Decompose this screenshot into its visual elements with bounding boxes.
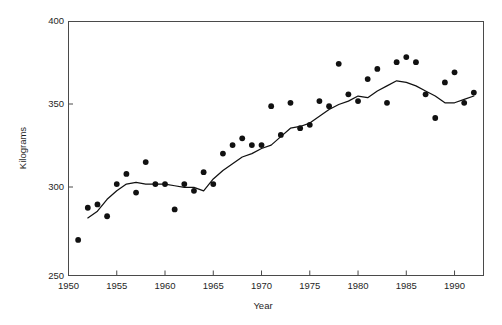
data-point (104, 213, 110, 219)
data-point (239, 135, 245, 141)
data-point (152, 181, 158, 187)
data-point (249, 142, 255, 148)
data-point (317, 98, 323, 104)
data-point (172, 207, 178, 213)
data-point (75, 237, 81, 243)
data-point (133, 190, 139, 196)
data-point (124, 171, 130, 177)
data-point (259, 142, 265, 148)
data-point (162, 181, 168, 187)
data-point (143, 159, 149, 165)
data-point (210, 181, 216, 187)
data-point (403, 54, 409, 60)
data-point (326, 103, 332, 109)
data-point (181, 181, 187, 187)
data-point (307, 122, 313, 128)
plot-frame (69, 22, 484, 276)
x-tick-label-1975: 1975 (299, 280, 320, 291)
data-point (365, 76, 371, 82)
data-point (355, 98, 361, 104)
y-tick-label-400: 400 (48, 15, 64, 26)
x-tick-label-1980: 1980 (347, 280, 368, 291)
x-tick-label-1990: 1990 (444, 280, 465, 291)
x-tick-label-1960: 1960 (154, 280, 175, 291)
data-point (345, 91, 351, 97)
x-tick-label-1950: 1950 (58, 280, 79, 291)
data-point (432, 115, 438, 121)
x-axis-tick-labels: 195019551960196519701975198019851990 (58, 280, 465, 291)
x-tick-label-1955: 1955 (106, 280, 127, 291)
data-point (201, 169, 207, 175)
x-axis-title: Year (253, 300, 272, 311)
y-tick-label-350: 350 (48, 98, 64, 109)
data-point (374, 66, 380, 72)
data-point (297, 125, 303, 131)
y-tick-label-300: 300 (48, 181, 64, 192)
data-point (85, 205, 91, 211)
data-point (442, 80, 448, 86)
data-point (394, 59, 400, 65)
data-point (423, 91, 429, 97)
y-axis-tick-labels: 400 350 300 250 (48, 15, 64, 281)
data-point (471, 90, 477, 96)
x-tick-label-1985: 1985 (396, 280, 417, 291)
x-axis-tickmarks (69, 271, 455, 276)
chart-figure: 400 350 300 250 195019551960196519701975… (0, 0, 502, 325)
x-tick-label-1970: 1970 (251, 280, 272, 291)
data-point (278, 132, 284, 138)
x-tick-label-1965: 1965 (203, 280, 224, 291)
data-point (288, 100, 294, 106)
data-point (114, 181, 120, 187)
data-point (191, 188, 197, 194)
scatter-plot-with-trend-line: 400 350 300 250 195019551960196519701975… (0, 0, 502, 325)
data-point (268, 103, 274, 109)
data-point (95, 201, 101, 207)
data-point (384, 100, 390, 106)
data-point (452, 69, 458, 75)
data-point (461, 100, 467, 106)
data-point (336, 61, 342, 67)
y-axis-title: Kilograms (17, 127, 28, 169)
data-point (230, 142, 236, 148)
data-point (220, 151, 226, 157)
scatter-dots-group (75, 54, 476, 243)
data-point (413, 59, 419, 65)
trend-line-path (88, 81, 474, 218)
